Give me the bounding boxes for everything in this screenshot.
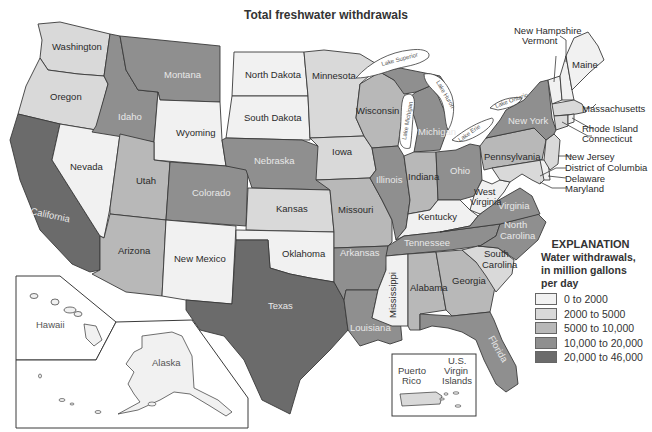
label-north-dakota: North Dakota <box>245 69 302 80</box>
label-maryland: Maryland <box>565 183 604 194</box>
label-usvi-3: Islands <box>442 375 472 386</box>
label-alabama: Alabama <box>410 282 448 293</box>
label-arkansas: Arkansas <box>340 247 380 258</box>
us-choropleth-map: Washington Oregon California Nevada Idah… <box>0 0 652 432</box>
legend-item: 5000 to 10,000 <box>535 321 652 336</box>
label-connecticut: Connecticut <box>582 133 633 144</box>
legend-label: 0 to 2000 <box>564 293 608 305</box>
label-oklahoma: Oklahoma <box>282 248 326 259</box>
label-south-carolina: South <box>484 248 509 259</box>
legend-subheading-3: per day <box>541 277 652 289</box>
legend-subheading-2: in million gallons <box>541 264 652 276</box>
legend-item: 2000 to 5000 <box>535 307 652 322</box>
legend-swatch <box>535 337 557 349</box>
label-virginia: Virginia <box>498 200 530 211</box>
label-idaho: Idaho <box>118 111 142 122</box>
label-alaska: Alaska <box>152 357 181 368</box>
label-indiana: Indiana <box>408 171 440 182</box>
legend-label: 20,000 to 46,000 <box>564 351 643 363</box>
label-hawaii: Hawaii <box>36 319 65 330</box>
state-indiana[interactable] <box>404 152 438 214</box>
hawaii-inset <box>16 276 116 360</box>
label-mississippi: Mississippi <box>387 272 398 318</box>
legend-swatch <box>535 308 557 320</box>
label-kansas: Kansas <box>276 203 308 214</box>
legend-item: 20,000 to 46,000 <box>535 350 652 365</box>
legend: EXPLANATION Water withdrawals, in millio… <box>535 238 652 365</box>
label-montana: Montana <box>164 69 202 80</box>
label-nevada: Nevada <box>70 161 103 172</box>
legend-label: 2000 to 5000 <box>564 308 625 320</box>
legend-swatch <box>535 293 557 305</box>
legend-swatch <box>535 351 557 363</box>
label-texas: Texas <box>268 300 293 311</box>
label-south-carolina-2: Carolina <box>482 259 518 270</box>
label-louisiana: Louisiana <box>350 322 391 333</box>
legend-heading: EXPLANATION <box>529 238 652 250</box>
legend-swatch <box>535 322 557 334</box>
label-puerto-rico-2: Rico <box>402 375 421 386</box>
label-colorado: Colorado <box>192 187 231 198</box>
legend-subheading-1: Water withdrawals, <box>541 251 652 263</box>
label-ohio: Ohio <box>450 165 470 176</box>
label-massachusetts: Massachusetts <box>582 103 646 114</box>
label-north-carolina: North <box>504 219 527 230</box>
label-west-virginia-2: Virginia <box>470 196 502 207</box>
label-new-jersey: New Jersey <box>565 151 615 162</box>
legend-item: 10,000 to 20,000 <box>535 336 652 351</box>
label-pennsylvania: Pennsylvania <box>484 151 541 162</box>
label-missouri: Missouri <box>338 204 373 215</box>
state-connecticut[interactable] <box>554 115 568 130</box>
puerto-rico-island <box>400 392 442 406</box>
label-maine: Maine <box>572 59 598 70</box>
label-tennessee: Tennessee <box>404 237 450 248</box>
label-minnesota: Minnesota <box>312 70 357 81</box>
legend-label: 5000 to 10,000 <box>564 322 634 334</box>
label-washington: Washington <box>52 41 102 52</box>
label-new-york: New York <box>508 115 548 126</box>
label-oregon: Oregon <box>50 91 82 102</box>
label-kentucky: Kentucky <box>418 211 457 222</box>
leader-delaware <box>548 176 566 178</box>
label-georgia: Georgia <box>452 275 487 286</box>
legend-item: 0 to 2000 <box>535 292 652 307</box>
label-utah: Utah <box>136 175 156 186</box>
state-iowa[interactable] <box>310 136 376 180</box>
label-district-of-columbia: District of Columbia <box>565 162 648 173</box>
leader-maryland <box>540 182 566 188</box>
label-illinois: Illinois <box>376 174 403 185</box>
label-michigan: Michigan <box>418 126 456 137</box>
label-new-mexico: New Mexico <box>174 253 226 264</box>
label-arizona: Arizona <box>118 245 151 256</box>
label-wisconsin: Wisconsin <box>356 105 399 116</box>
label-south-dakota: South Dakota <box>244 112 302 123</box>
legend-label: 10,000 to 20,000 <box>564 337 643 349</box>
label-iowa: Iowa <box>332 146 353 157</box>
label-wyoming: Wyoming <box>176 127 216 138</box>
label-vermont: Vermont <box>522 35 558 46</box>
label-nebraska: Nebraska <box>254 155 295 166</box>
